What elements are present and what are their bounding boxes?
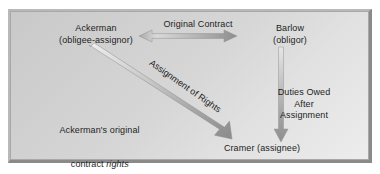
arrow-label-original-contract: Original Contract — [138, 19, 258, 31]
annotation-ackerman-note: Ackerman's original contract rights are … — [14, 113, 170, 174]
arrow-label-duties-owed: Duties Owed After Assignment — [256, 87, 352, 122]
node-label-cramer: Cramer (assignee) — [196, 143, 328, 155]
assignment-of-rights-diagram: Ackerman (obligee-assignor) Barlow (obli… — [0, 0, 380, 174]
annotation-line-2-emphasis: rights — [106, 159, 129, 169]
annotation-line-1: Ackerman's original — [59, 125, 139, 135]
annotation-line-2-prefix: contract — [71, 159, 106, 169]
diagram-canvas: Ackerman (obligee-assignor) Barlow (obli… — [8, 9, 372, 163]
